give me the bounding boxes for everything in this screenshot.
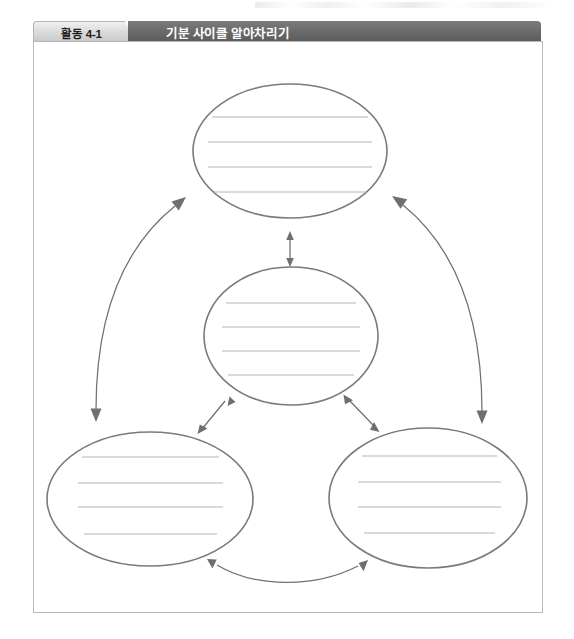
activity-header: 활동 4-1 기분 사이클 알아차리기 <box>33 21 543 43</box>
worksheet-frame <box>33 41 543 613</box>
activity-number-label: 활동 4-1 <box>61 25 108 41</box>
activity-number-tab: 활동 4-1 <box>33 21 136 43</box>
activity-title-text: 기분 사이클 알아차리기 <box>166 23 289 42</box>
activity-title-banner: 기분 사이클 알아차리기 <box>128 21 541 43</box>
scan-artifact-band <box>0 0 574 18</box>
